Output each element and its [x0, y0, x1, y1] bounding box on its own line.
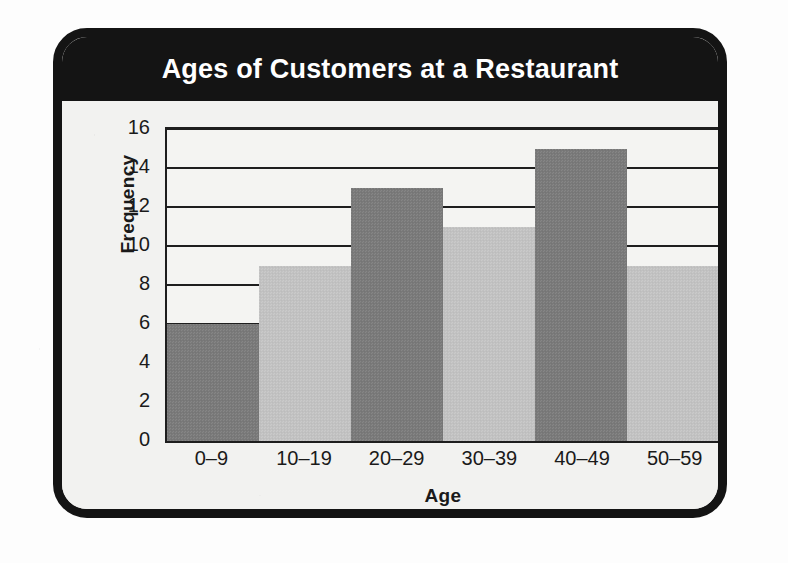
bar-fill — [259, 266, 351, 442]
x-axis-tick: 30–39 — [443, 447, 536, 470]
bar-fill — [535, 149, 627, 442]
x-axis-tick: 0–9 — [165, 447, 258, 470]
y-axis-tick: 14 — [128, 156, 150, 176]
y-axis-tick: 12 — [128, 195, 150, 215]
chart-body: Frequency 1614121086420 0–910–1920–2930–… — [62, 101, 718, 509]
y-axis-tick: 16 — [128, 117, 150, 137]
bar[interactable] — [535, 129, 627, 441]
bar[interactable] — [259, 129, 351, 441]
x-axis-tick-labels: 0–910–1920–2930–3940–4950–59 — [165, 447, 721, 470]
bar-fill — [351, 188, 443, 442]
bar[interactable] — [167, 129, 259, 441]
y-axis-tick: 4 — [139, 351, 150, 371]
y-axis-tick: 8 — [139, 273, 150, 293]
plot-area — [165, 127, 721, 443]
bar-fill — [167, 324, 259, 441]
figure-frame: Ages of Customers at a Restaurant Freque… — [53, 28, 727, 518]
bar[interactable] — [351, 129, 443, 441]
y-axis-tick-labels: 1614121086420 — [104, 127, 150, 439]
y-axis-tick: 0 — [139, 429, 150, 449]
bar[interactable] — [627, 129, 719, 441]
y-axis-tick: 2 — [139, 390, 150, 410]
y-axis-tick: 6 — [139, 312, 150, 332]
x-axis-tick: 50–59 — [628, 447, 721, 470]
x-axis-tick: 10–19 — [258, 447, 351, 470]
x-axis-tick: 20–29 — [350, 447, 443, 470]
x-axis-tick: 40–49 — [536, 447, 629, 470]
page-title: Ages of Customers at a Restaurant — [162, 54, 619, 85]
y-axis-tick: 10 — [128, 234, 150, 254]
bar-fill — [627, 266, 719, 442]
title-band: Ages of Customers at a Restaurant — [62, 37, 718, 101]
bar-fill — [443, 227, 535, 442]
bar-series — [167, 129, 719, 441]
x-axis-label: Age — [165, 485, 721, 507]
bar[interactable] — [443, 129, 535, 441]
